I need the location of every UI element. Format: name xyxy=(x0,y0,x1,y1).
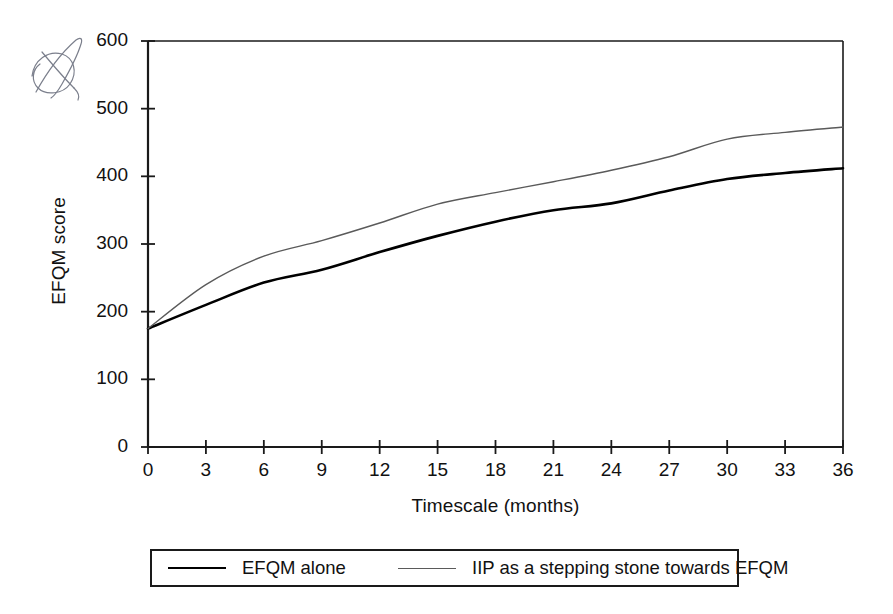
x-tick-label: 27 xyxy=(649,459,689,481)
x-tick-label: 9 xyxy=(302,459,342,481)
x-tick-label: 24 xyxy=(591,459,631,481)
legend-item-efqm-alone: EFQM alone xyxy=(168,551,346,585)
x-tick-label: 6 xyxy=(244,459,284,481)
y-tick-label: 200 xyxy=(74,300,128,322)
legend-swatch-icon xyxy=(168,567,226,569)
y-tick-label: 100 xyxy=(74,367,128,389)
plot-area xyxy=(0,0,893,614)
y-tick-label: 500 xyxy=(74,97,128,119)
x-tick-label: 3 xyxy=(186,459,226,481)
y-tick-label: 300 xyxy=(74,232,128,254)
series-line-1 xyxy=(148,127,843,329)
legend: EFQM alone IIP as a stepping stone towar… xyxy=(150,549,739,587)
legend-swatch-icon xyxy=(398,568,456,569)
legend-item-label: EFQM alone xyxy=(242,557,346,579)
x-tick-label: 36 xyxy=(823,459,863,481)
y-tick-label: 600 xyxy=(74,29,128,51)
legend-item-label: IIP as a stepping stone towards EFQM xyxy=(472,557,788,579)
x-tick-label: 21 xyxy=(533,459,573,481)
x-tick-label: 30 xyxy=(707,459,747,481)
x-tick-label: 15 xyxy=(418,459,458,481)
x-tick-label: 18 xyxy=(476,459,516,481)
x-tick-label: 0 xyxy=(128,459,168,481)
y-tick-label: 400 xyxy=(74,164,128,186)
x-tick-label: 12 xyxy=(360,459,400,481)
y-tick-label: 0 xyxy=(74,435,128,457)
legend-item-iip-stepping-stone: IIP as a stepping stone towards EFQM xyxy=(398,551,788,585)
x-tick-label: 33 xyxy=(765,459,805,481)
y-axis-label: EFQM score xyxy=(48,181,70,321)
x-axis-label: Timescale (months) xyxy=(148,495,843,517)
chart-figure: EFQM score Timescale (months) 0100200300… xyxy=(0,0,893,614)
